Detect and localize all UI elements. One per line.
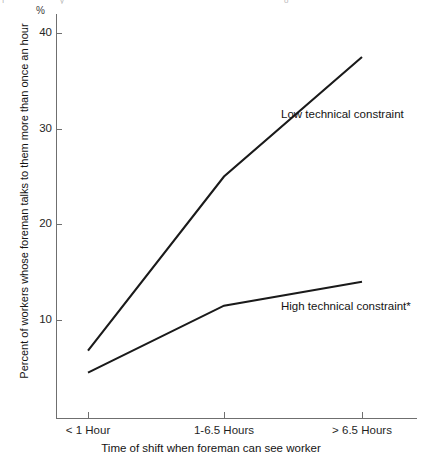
series-label-high-technical-constraint: High technical constraint* xyxy=(281,300,411,312)
series-plot-area xyxy=(0,0,422,457)
line-chart: I y o % 40 30 20 10 Percent of workers w… xyxy=(0,0,422,457)
series-line-high-technical-constraint xyxy=(88,282,362,373)
series-label-low-technical-constraint: Low technical constraint xyxy=(281,108,404,120)
